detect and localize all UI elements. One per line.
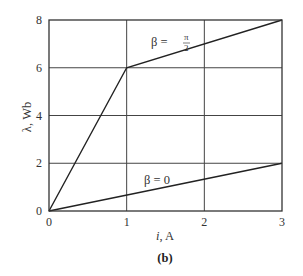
y-tick-label: 4 (36, 109, 42, 123)
annotation-fraction-denominator: 2 (184, 43, 189, 53)
y-axis-label: λ, Wb (20, 102, 34, 132)
figure-caption: (b) (157, 251, 172, 265)
annotation-beta-zero: β = 0 (144, 173, 170, 187)
y-tick-label: 2 (36, 156, 42, 170)
y-tick-label: 0 (36, 204, 42, 218)
annotation-fraction-numerator: π (184, 32, 189, 42)
y-tick-label: 6 (36, 61, 42, 75)
series-line-1 (49, 163, 282, 211)
x-tick-label: 0 (46, 215, 52, 229)
x-tick-label: 3 (279, 215, 285, 229)
x-tick-label: 2 (201, 215, 207, 229)
annotation-beta-pi-over-2: β = (151, 35, 168, 49)
x-axis-ticks: 0123 (46, 215, 285, 229)
y-tick-label: 8 (36, 13, 42, 27)
x-axis-label: i, A (156, 229, 174, 243)
x-tick-label: 1 (124, 215, 130, 229)
y-axis-ticks: 02468 (36, 13, 42, 218)
flux-linkage-chart: 02468 0123 β = π 2 β = 0 λ, Wb i, A (b) (0, 0, 303, 276)
